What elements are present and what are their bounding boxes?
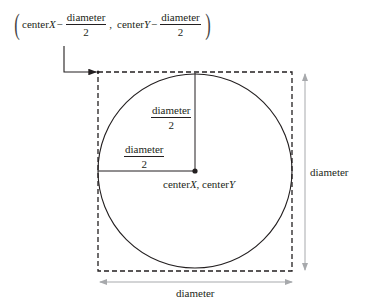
pointer-arrow bbox=[64, 46, 96, 72]
term1-var: X bbox=[49, 18, 56, 30]
separator: , bbox=[109, 18, 112, 30]
right-dimension-label: diameter bbox=[310, 166, 348, 178]
close-paren: ) bbox=[205, 9, 211, 39]
top-left-point bbox=[97, 71, 100, 74]
fraction-2: diameter 2 bbox=[160, 11, 200, 38]
diagram-canvas bbox=[0, 0, 365, 306]
center-label: centerX, centerY bbox=[163, 178, 235, 190]
minus-sign-2: − bbox=[151, 18, 157, 30]
center-point bbox=[192, 168, 197, 173]
minus-sign-1: − bbox=[57, 18, 63, 30]
horizontal-radius-label: diameter 2 bbox=[124, 143, 164, 170]
corner-formula: ( centerX − diameter 2 , centerY − diame… bbox=[12, 8, 213, 40]
term1-prefix: center bbox=[22, 18, 49, 30]
vertical-radius-label: diameter 2 bbox=[151, 104, 191, 131]
term2-var: Y bbox=[144, 18, 150, 30]
term2-prefix: center bbox=[117, 18, 144, 30]
open-paren: ( bbox=[14, 9, 20, 39]
fraction-1: diameter 2 bbox=[66, 11, 106, 38]
bottom-dimension-label: diameter bbox=[176, 287, 214, 299]
